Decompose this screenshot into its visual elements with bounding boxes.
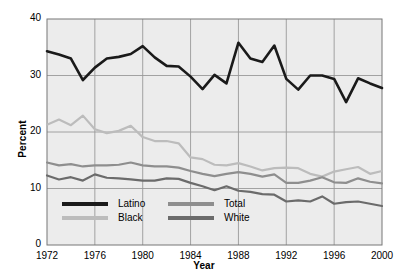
legend-label-white: White: [224, 212, 250, 223]
legend-swatch-total: [168, 202, 214, 206]
x-axis-tick-label: 1988: [218, 250, 258, 261]
chart-container: Percent Year 010203040197219761980198419…: [0, 0, 408, 278]
y-axis-tick-label: 40: [15, 12, 41, 23]
x-axis-tick-label: 1980: [123, 250, 163, 261]
y-axis-tick-label: 20: [15, 125, 41, 136]
y-axis-tick-label: 10: [15, 182, 41, 193]
legend-swatch-latino: [62, 202, 108, 206]
x-axis-tick-label: 1984: [171, 250, 211, 261]
legend-swatch-white: [168, 216, 214, 220]
legend-label-latino: Latino: [118, 198, 145, 209]
x-axis-tick-label: 1972: [27, 250, 67, 261]
x-axis-tick-label: 1976: [75, 250, 115, 261]
y-axis-tick-label: 0: [15, 238, 41, 249]
y-axis-tick-label: 30: [15, 69, 41, 80]
legend-swatch-black: [62, 216, 108, 220]
legend-label-total: Total: [224, 198, 245, 209]
line-chart-plot: [0, 0, 408, 278]
x-axis-tick-label: 1992: [266, 250, 306, 261]
x-axis-tick-label: 1996: [314, 250, 354, 261]
legend-label-black: Black: [118, 212, 142, 223]
x-axis-tick-label: 2000: [362, 250, 402, 261]
